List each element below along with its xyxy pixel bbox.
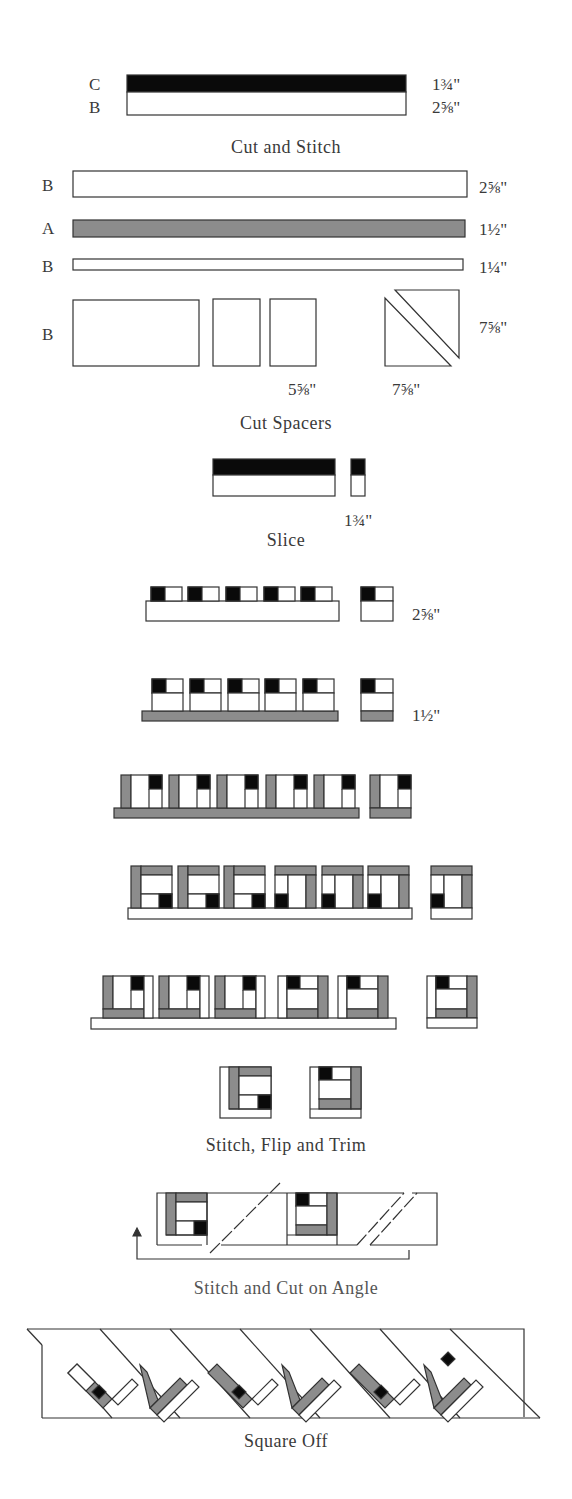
strip-width-label: 2⅝" — [412, 606, 440, 623]
spacer-rectangles — [73, 299, 316, 366]
fabric-label-b: B — [42, 258, 53, 275]
step-caption-cut-and-stitch: Cut and Stitch — [0, 138, 572, 156]
strip-a — [73, 220, 465, 237]
spacer-triangles — [385, 290, 459, 366]
chain-row-2 — [142, 679, 393, 721]
step-caption-slice: Slice — [0, 531, 572, 549]
width-label: 1¼" — [479, 259, 507, 276]
square-width-label: 7⅝" — [392, 381, 420, 398]
strip-b-narrow — [73, 259, 463, 270]
angle-cut-strip — [157, 1183, 437, 1253]
trimmed-block-1 — [220, 1067, 271, 1118]
fabric-label-b: B — [42, 326, 53, 343]
strip-width-label: 1½" — [412, 707, 440, 724]
chain-row-3 — [114, 775, 411, 818]
square-height-label: 7⅝" — [479, 319, 507, 336]
step-caption-stitch-flip-trim: Stitch, Flip and Trim — [0, 1136, 572, 1154]
square-off-blocks — [68, 1329, 540, 1422]
chain-row-1 — [146, 587, 393, 621]
chain-row-5 — [91, 976, 477, 1029]
slice-width-label: 1¾" — [344, 512, 372, 529]
strip-b-wide — [73, 171, 467, 197]
step-caption-stitch-cut-angle: Stitch and Cut on Angle — [0, 1279, 572, 1297]
width-label: 2⅝" — [479, 179, 507, 196]
width-label: 2⅝" — [432, 99, 460, 116]
slice-strip-set — [213, 459, 365, 496]
chain-row-4 — [128, 866, 472, 919]
width-label: 1½" — [479, 221, 507, 238]
trimmed-block-2 — [310, 1067, 361, 1118]
fabric-label-b: B — [89, 99, 100, 116]
step-caption-cut-spacers: Cut Spacers — [0, 414, 572, 432]
spacer-size-label: 5⅝" — [288, 381, 316, 398]
fabric-label-a: A — [42, 220, 54, 237]
step-caption-square-off: Square Off — [0, 1432, 572, 1450]
fabric-label-b: B — [42, 177, 53, 194]
fabric-label-c: C — [89, 76, 100, 93]
strip-set-c-b — [127, 75, 406, 115]
width-label: 1¾" — [432, 76, 460, 93]
